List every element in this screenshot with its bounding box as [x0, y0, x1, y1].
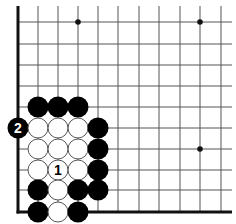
black-stone-icon	[48, 97, 69, 118]
black-stone	[88, 118, 109, 139]
move-number-label: 1	[54, 162, 62, 178]
white-stone	[68, 160, 88, 180]
black-stone	[88, 180, 109, 201]
black-stone-icon	[88, 160, 109, 181]
white-stone	[28, 139, 48, 159]
black-stone-icon	[68, 202, 89, 223]
black-stone	[68, 180, 89, 201]
white-stone-icon	[68, 139, 88, 159]
black-stone-icon	[88, 118, 109, 139]
stones-layer: 21	[8, 97, 109, 223]
move-number-label: 2	[14, 120, 22, 136]
star-point-icon	[197, 19, 203, 25]
black-stone	[28, 202, 49, 223]
white-stone	[28, 160, 48, 180]
black-stone: 2	[8, 118, 29, 139]
black-stone	[68, 97, 89, 118]
black-stone-icon	[28, 97, 49, 118]
black-stone-icon	[68, 180, 89, 201]
white-stone	[48, 180, 68, 200]
black-stone	[68, 202, 89, 223]
white-stone-icon	[68, 118, 88, 138]
black-stone	[88, 160, 109, 181]
white-stone	[68, 118, 88, 138]
black-stone-icon	[68, 97, 89, 118]
go-board: 21	[0, 0, 236, 224]
black-stone	[28, 97, 49, 118]
white-stone	[28, 118, 48, 138]
white-stone: 1	[48, 160, 68, 180]
white-stone-icon	[68, 160, 88, 180]
black-stone	[48, 97, 69, 118]
white-stone-icon	[28, 139, 48, 159]
white-stone-icon	[48, 139, 68, 159]
white-stone-icon	[28, 160, 48, 180]
black-stone	[28, 180, 49, 201]
white-stone	[48, 118, 68, 138]
white-stone-icon	[28, 118, 48, 138]
black-stone	[88, 139, 109, 160]
black-stone-icon	[28, 180, 49, 201]
star-point-icon	[75, 19, 81, 25]
white-stone-icon	[48, 118, 68, 138]
white-stone-icon	[48, 202, 68, 222]
white-stone-icon	[48, 180, 68, 200]
star-point-icon	[197, 146, 203, 152]
white-stone	[68, 139, 88, 159]
white-stone	[48, 139, 68, 159]
black-stone-icon	[88, 180, 109, 201]
black-stone-icon	[28, 202, 49, 223]
black-stone-icon	[88, 139, 109, 160]
white-stone	[48, 202, 68, 222]
